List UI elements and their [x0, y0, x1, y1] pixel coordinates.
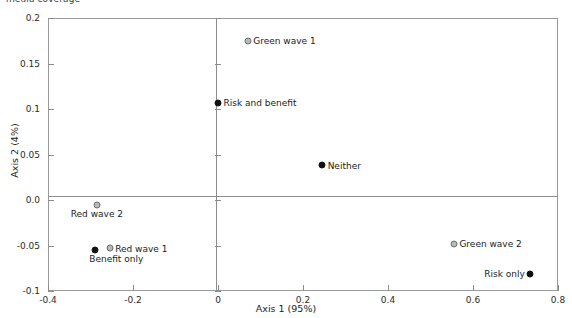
- scatter-plot-figure: media coverage Green wave 1Risk and bene…: [0, 0, 572, 318]
- data-point[interactable]: Red wave 2: [93, 201, 100, 208]
- x-tick: [303, 285, 304, 291]
- y-tick-label: 0.15: [2, 59, 40, 69]
- data-point[interactable]: Red wave 1: [106, 245, 113, 252]
- data-point-marker-open: [106, 245, 113, 252]
- figure-caption: media coverage: [6, 0, 80, 4]
- data-point-label: Benefit only: [89, 254, 143, 264]
- data-point-label: Red wave 1: [115, 243, 167, 253]
- plot-frame-top: [48, 18, 558, 19]
- data-point-marker-filled: [215, 99, 222, 106]
- x-axis-label: Axis 1 (95%): [0, 303, 572, 314]
- data-point-marker-open: [93, 201, 100, 208]
- x-tick: [133, 285, 134, 291]
- data-point-marker-filled: [319, 162, 326, 169]
- y-tick-inner: [215, 200, 221, 201]
- x-tick: [388, 285, 389, 291]
- y-tick-label: -0.05: [2, 241, 40, 251]
- y-tick-inner: [215, 246, 221, 247]
- x-tick: [473, 285, 474, 291]
- plot-area: Green wave 1Risk and benefitNeitherRed w…: [48, 18, 558, 291]
- data-point-label: Green wave 2: [459, 239, 521, 249]
- data-point[interactable]: Benefit only: [91, 247, 98, 254]
- y-tick-label: -0.1: [2, 286, 40, 296]
- y-axis-label: Axis 2 (4%): [9, 71, 20, 231]
- data-point[interactable]: Green wave 1: [244, 37, 251, 44]
- data-point-marker-filled: [527, 270, 534, 277]
- data-point[interactable]: Risk and benefit: [215, 99, 222, 106]
- data-point-marker-filled: [91, 247, 98, 254]
- data-point[interactable]: Risk only: [527, 270, 534, 277]
- zero-line-horizontal: [48, 196, 558, 197]
- y-tick-inner: [215, 155, 221, 156]
- y-tick: [48, 200, 54, 201]
- data-point-label: Risk and benefit: [224, 98, 297, 108]
- data-point-label: Red wave 2: [71, 208, 123, 218]
- data-point-marker-open: [450, 240, 457, 247]
- data-point-label: Risk only: [484, 269, 525, 279]
- y-tick: [48, 64, 54, 65]
- y-tick-inner: [215, 64, 221, 65]
- data-point-label: Green wave 1: [253, 36, 315, 46]
- data-point-marker-open: [244, 37, 251, 44]
- data-point-label: Neither: [328, 160, 361, 170]
- plot-frame-right: [557, 18, 558, 291]
- y-tick-inner: [215, 109, 221, 110]
- x-tick: [558, 285, 559, 291]
- y-tick: [48, 155, 54, 156]
- y-tick: [48, 246, 54, 247]
- data-point[interactable]: Green wave 2: [450, 240, 457, 247]
- data-point[interactable]: Neither: [319, 162, 326, 169]
- y-tick-inner: [215, 291, 221, 292]
- y-tick-label: 0.2: [2, 13, 40, 23]
- y-tick: [48, 291, 54, 292]
- y-tick: [48, 109, 54, 110]
- y-tick-inner: [215, 18, 221, 19]
- y-tick: [48, 18, 54, 19]
